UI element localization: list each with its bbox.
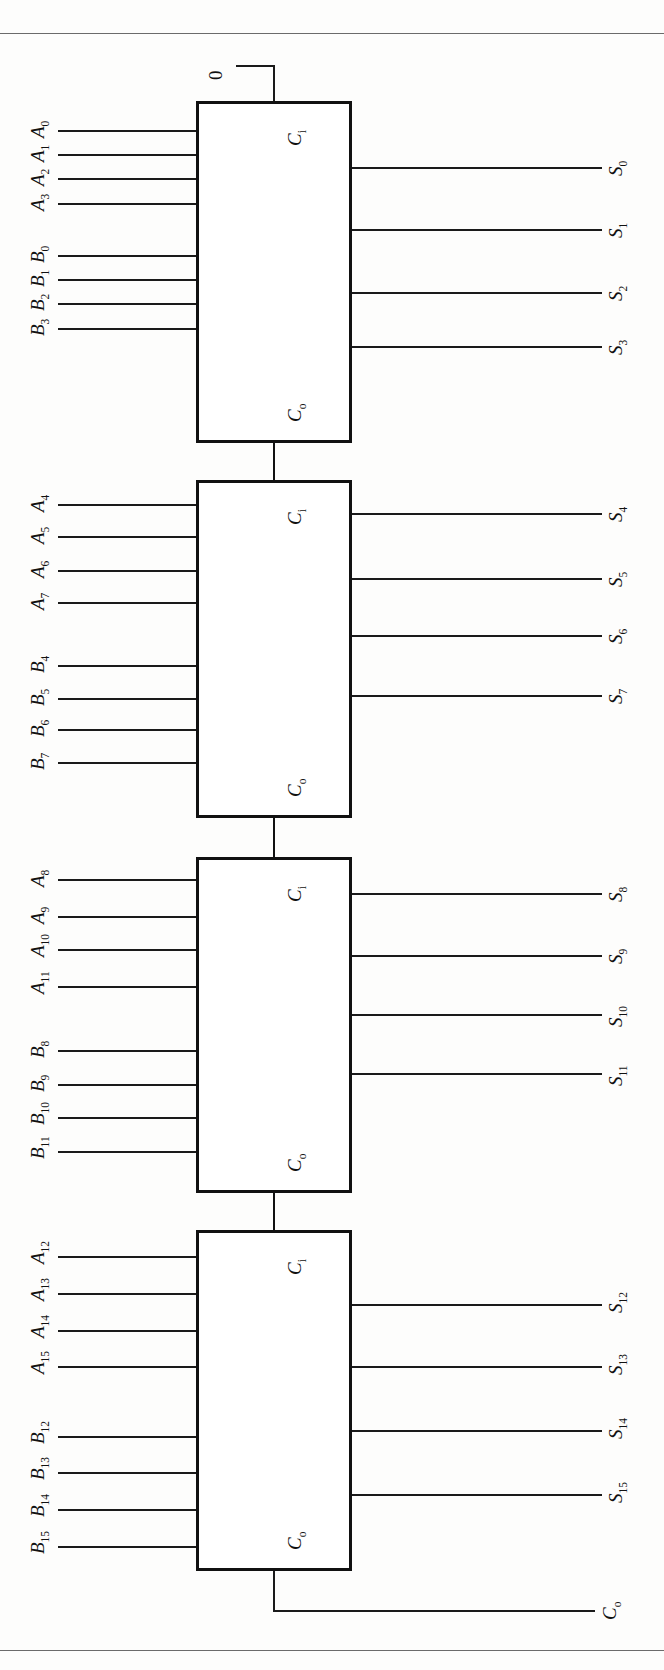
label-a13: A13: [28, 1278, 51, 1301]
label-a7: A7: [28, 593, 51, 610]
label-b12: B12: [28, 1421, 51, 1444]
wire-input-a13: [58, 1293, 196, 1295]
pin-carry-out-0: Co: [285, 404, 308, 422]
wire-input-a5: [58, 536, 196, 538]
wire-output-s4: [352, 513, 602, 515]
wire-input-b13: [58, 1472, 196, 1474]
pin-carry-in-0: Ci: [285, 130, 308, 146]
label-s8: S8: [606, 887, 629, 902]
label-s0: S0: [606, 161, 629, 176]
wire-carry-2-to-3: [273, 1193, 275, 1230]
wire-input-a1: [58, 154, 196, 156]
pin-carry-in-2: Ci: [285, 886, 308, 902]
constant-zero-label: 0: [206, 71, 225, 81]
wire-input-b6: [58, 729, 196, 731]
wire-input-a0: [58, 130, 196, 132]
label-b2: B2: [28, 294, 51, 311]
wire-output-s7: [352, 695, 602, 697]
wire-input-b7: [58, 762, 196, 764]
label-final-carry-out: Co: [600, 1602, 623, 1620]
label-b6: B6: [28, 720, 51, 737]
label-s9: S9: [606, 949, 629, 964]
label-s6: S6: [606, 629, 629, 644]
label-a14: A14: [28, 1315, 51, 1338]
wire-input-b4: [58, 665, 196, 667]
wire-output-s0: [352, 167, 602, 169]
label-b3: B3: [28, 319, 51, 336]
label-a6: A6: [28, 561, 51, 578]
wire-carry-1-to-2: [273, 818, 275, 857]
wire-output-s9: [352, 955, 602, 957]
wire-constant-zero-horizontal: [236, 65, 275, 67]
pin-carry-in-3: Ci: [285, 1259, 308, 1275]
label-s15: S15: [606, 1482, 629, 1503]
label-a4: A4: [28, 495, 51, 512]
wire-input-b5: [58, 698, 196, 700]
wire-input-b12: [58, 1436, 196, 1438]
label-s14: S14: [606, 1418, 629, 1439]
wire-input-a15: [58, 1366, 196, 1368]
wire-input-b15: [58, 1546, 196, 1548]
adder-block-1[interactable]: Ci Co: [196, 480, 352, 818]
label-a0: A0: [28, 121, 51, 138]
label-a9: A9: [28, 907, 51, 924]
adder-block-3[interactable]: Ci Co: [196, 1230, 352, 1571]
wire-input-b9: [58, 1084, 196, 1086]
wire-output-s14: [352, 1430, 602, 1432]
label-b1: B1: [28, 270, 51, 287]
label-s5: S5: [606, 572, 629, 587]
label-s12: S12: [606, 1292, 629, 1313]
wire-input-a9: [58, 916, 196, 918]
label-b15: B15: [28, 1531, 51, 1554]
wire-input-a10: [58, 949, 196, 951]
wire-input-a12: [58, 1256, 196, 1258]
wire-output-s10: [352, 1014, 602, 1016]
label-s13: S13: [606, 1354, 629, 1375]
label-a15: A15: [28, 1351, 51, 1374]
label-s10: S10: [606, 1006, 629, 1027]
label-a8: A8: [28, 870, 51, 887]
wire-output-s6: [352, 635, 602, 637]
wire-final-carry-horizontal: [273, 1610, 595, 1612]
label-s4: S4: [606, 507, 629, 522]
page-rule-bottom: [0, 1650, 664, 1651]
adder-block-2[interactable]: Ci Co: [196, 857, 352, 1193]
label-s7: S7: [606, 689, 629, 704]
wire-input-a11: [58, 986, 196, 988]
wire-output-s2: [352, 292, 602, 294]
label-a3: A3: [28, 194, 51, 211]
wire-input-a6: [58, 570, 196, 572]
label-b8: B8: [28, 1041, 51, 1058]
wire-output-s1: [352, 229, 602, 231]
label-b11: B11: [28, 1136, 51, 1159]
label-b0: B0: [28, 246, 51, 263]
label-b13: B13: [28, 1457, 51, 1480]
wire-output-s11: [352, 1073, 602, 1075]
label-a2: A2: [28, 169, 51, 186]
wire-input-b3: [58, 328, 196, 330]
pin-carry-out-2: Co: [285, 1154, 308, 1172]
figure-page: 0 Ci Co A0 A1 A2 A3 B0 B1 B2 B3 S0 S1 S2…: [0, 0, 664, 1670]
wire-input-a8: [58, 879, 196, 881]
wire-input-a3: [58, 203, 196, 205]
pin-carry-out-3: Co: [285, 1532, 308, 1550]
label-s1: S1: [606, 223, 629, 238]
label-b4: B4: [28, 656, 51, 673]
wire-input-b14: [58, 1509, 196, 1511]
page-rule-top: [0, 33, 664, 34]
wire-output-s8: [352, 893, 602, 895]
label-s2: S2: [606, 286, 629, 301]
wire-input-b1: [58, 279, 196, 281]
wire-input-a7: [58, 602, 196, 604]
wire-input-a2: [58, 178, 196, 180]
wire-input-a14: [58, 1330, 196, 1332]
wire-input-b10: [58, 1117, 196, 1119]
wire-output-s13: [352, 1366, 602, 1368]
wire-input-b11: [58, 1151, 196, 1153]
pin-carry-in-1: Ci: [285, 509, 308, 525]
label-b9: B9: [28, 1075, 51, 1092]
label-a5: A5: [28, 527, 51, 544]
wire-input-b2: [58, 303, 196, 305]
adder-block-0[interactable]: Ci Co: [196, 101, 352, 443]
wire-input-b0: [58, 255, 196, 257]
